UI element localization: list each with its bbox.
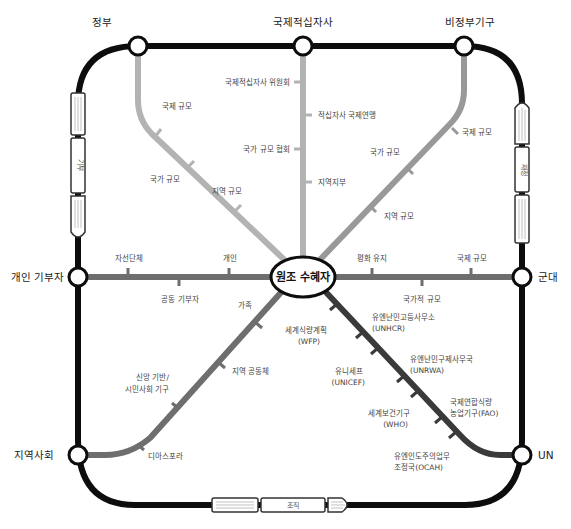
station-label-government: 정부: [92, 16, 112, 28]
stop-label: 국가 규모: [370, 148, 400, 157]
stop-label: 적십자사 국제연맹: [318, 110, 376, 120]
stop-label: 자선단체: [115, 253, 143, 263]
stop-label: 지역 규모: [384, 211, 414, 221]
station-label-red-cross: 국제적십자사: [273, 16, 333, 28]
station-red-cross[interactable]: [294, 37, 312, 55]
train-right-label: 재정: [520, 164, 529, 176]
stop-label: 지역지부: [318, 177, 346, 187]
stop-label: 국가 규모: [150, 175, 180, 184]
tick: [356, 332, 363, 338]
stop-label: 세계보건기구: [368, 408, 410, 418]
station-label-un: UN: [538, 449, 554, 461]
station-ngo[interactable]: [455, 37, 473, 55]
stop-label: 국제 규모: [457, 254, 487, 263]
stop-label: 개인: [223, 253, 237, 263]
stop-label: 세계식량계획: [285, 325, 327, 335]
stop-label: 신앙 기반/: [136, 372, 169, 382]
tick: [255, 322, 262, 328]
station-military[interactable]: [513, 268, 531, 286]
stop-label: 가족: [238, 301, 252, 310]
stop-label: 국가적 규모: [403, 294, 440, 304]
tick: [435, 417, 442, 423]
tick: [449, 432, 456, 438]
stop-label: 유엔인도주의업무: [394, 451, 450, 461]
stop-label: 조정국(OCAH): [394, 462, 443, 472]
tick: [235, 205, 241, 211]
hub-label: 원조 수혜자: [276, 270, 331, 284]
stop-label: 시민사회 기구: [125, 384, 169, 394]
tick: [407, 168, 413, 174]
stop-label: 국제 규모: [462, 128, 492, 137]
line-ngo: [312, 46, 464, 268]
stop-label: 디아스포라: [148, 451, 183, 461]
tick: [397, 376, 404, 382]
stop-label: 국제 규모: [162, 102, 192, 111]
stop-label: 지역 공동체: [232, 366, 269, 376]
station-un[interactable]: [513, 446, 531, 464]
train-right: 재정: [515, 103, 529, 243]
stop-label: (UNRWA): [410, 366, 444, 375]
stop-label: 유엔난민고등사무소: [372, 312, 435, 322]
tick: [371, 348, 378, 354]
stop-label: 지역 규모: [212, 186, 242, 196]
stop-label: 국가 규모 협회: [243, 144, 290, 154]
tick: [370, 206, 376, 212]
station-individual-donor[interactable]: [69, 268, 87, 286]
stop-label: (WFP): [298, 337, 320, 346]
stop-label: 평화 유지: [357, 253, 387, 263]
stop-label: 국제연합식량: [450, 398, 492, 407]
station-label-ngo: 비정부기구: [445, 16, 495, 28]
stop-label: 국제적십자사 위원회: [225, 77, 290, 87]
train-bottom-label: 조직: [287, 501, 299, 510]
stop-label: (UNICEF): [332, 378, 366, 387]
tick: [411, 391, 418, 397]
stop-label: 공동 기부자: [161, 295, 198, 304]
stop-label: 유니세프: [335, 367, 363, 376]
station-government[interactable]: [129, 37, 147, 55]
stop-label: 유엔난민구제사무국: [410, 354, 473, 364]
tick: [188, 161, 194, 167]
tick: [452, 128, 458, 134]
station-community[interactable]: [69, 446, 87, 464]
stop-label: (WHO): [383, 420, 408, 429]
station-label-military: 군대: [538, 271, 558, 283]
stop-label: 농업기구(FAO): [450, 409, 498, 418]
station-label-individual-donor: 개인 기부자: [11, 271, 64, 283]
train-left-label: 기부: [76, 159, 85, 172]
stop-label: (UNHCR): [372, 324, 405, 333]
humanitarian-metro-map: 기부 재정 조직 원조 수혜자 정부 국제적십자사 비정부기구 개: [0, 0, 571, 529]
train-left: 기부: [71, 93, 85, 237]
station-label-community: 지역사회: [14, 449, 54, 461]
